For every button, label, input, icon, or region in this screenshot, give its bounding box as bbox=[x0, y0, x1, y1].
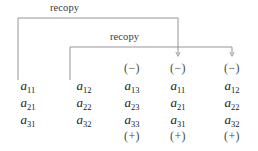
positive-sign: (+) bbox=[210, 130, 254, 147]
negative-sign: (−) bbox=[210, 62, 254, 79]
matrix-cell: a21 bbox=[156, 96, 200, 113]
matrix-cell: a31 bbox=[156, 113, 200, 130]
matrix-cell: a22 bbox=[210, 96, 254, 113]
recopy-label-inner: recopy bbox=[110, 32, 139, 43]
recopy-label-outer: recopy bbox=[50, 3, 79, 14]
column-2-top-sign-spacer bbox=[62, 62, 106, 79]
matrix-cell: a33 bbox=[110, 113, 154, 130]
negative-sign: (−) bbox=[110, 62, 154, 79]
matrix-column-1: a11 a21 a31 bbox=[6, 62, 50, 147]
matrix-cell: a23 bbox=[110, 96, 154, 113]
matrix-cell: a32 bbox=[210, 113, 254, 130]
negative-sign: (−) bbox=[156, 62, 200, 79]
column-1-top-sign-spacer bbox=[6, 62, 50, 79]
matrix-column-3: (−) a13 a23 a33 (+) bbox=[110, 62, 154, 147]
matrix-column-4: (−) a11 a21 a31 (+) bbox=[156, 62, 200, 147]
matrix-cell: a13 bbox=[110, 79, 154, 96]
matrix-cell: a32 bbox=[62, 113, 106, 130]
matrix-cell: a21 bbox=[6, 96, 50, 113]
matrix-cell: a22 bbox=[62, 96, 106, 113]
matrix-cell: a31 bbox=[6, 113, 50, 130]
column-2-bottom-sign-spacer bbox=[62, 130, 106, 147]
positive-sign: (+) bbox=[110, 130, 154, 147]
positive-sign: (+) bbox=[156, 130, 200, 147]
matrix-column-2: a12 a22 a32 bbox=[62, 62, 106, 147]
matrix-cell: a12 bbox=[62, 79, 106, 96]
column-1-bottom-sign-spacer bbox=[6, 130, 50, 147]
matrix-column-5: (−) a12 a22 a32 (+) bbox=[210, 62, 254, 147]
matrix-cell: a12 bbox=[210, 79, 254, 96]
matrix-cell: a11 bbox=[156, 79, 200, 96]
sarrus-rule-figure: recopy recopy a11 a21 a31 a12 a22 a32 (−… bbox=[0, 0, 258, 151]
matrix-cell: a11 bbox=[6, 79, 50, 96]
